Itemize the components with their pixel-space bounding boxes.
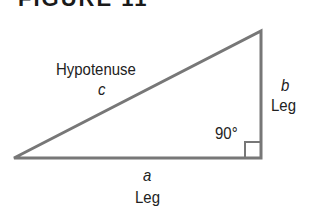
- hypotenuse-variable: c: [98, 80, 105, 100]
- vertical-leg-label: Leg: [271, 96, 296, 116]
- angle-label: 90°: [215, 124, 238, 144]
- horizontal-leg-variable: a: [143, 166, 151, 186]
- horizontal-leg-label: Leg: [135, 188, 160, 208]
- right-angle-marker: [245, 142, 261, 158]
- vertical-leg-variable: b: [281, 76, 289, 96]
- hypotenuse-label: Hypotenuse: [56, 60, 136, 80]
